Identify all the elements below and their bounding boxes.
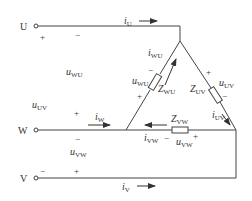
- label-z-uv: ZUV: [190, 83, 206, 96]
- label-iw: iW: [95, 111, 105, 124]
- sign-u-plus: +: [40, 32, 45, 42]
- terminal-w-label: W: [18, 125, 28, 136]
- sign-zwu-minus: −: [148, 65, 153, 75]
- impedance-zvw: [172, 127, 188, 133]
- label-uph-uv: uUV: [219, 77, 234, 90]
- sign-zwu-plus: +: [137, 91, 142, 101]
- label-iv: iV: [122, 181, 130, 194]
- sign-v-minus: −: [40, 166, 45, 176]
- impedance-zuv: [209, 87, 223, 104]
- label-z-wu: ZWU: [158, 83, 175, 96]
- wires: [38, 26, 236, 178]
- terminal-u-label: U: [20, 21, 28, 32]
- label-uph-wu: uWU: [132, 75, 149, 88]
- terminal-w: [34, 128, 38, 132]
- label-uph-vw: uVW: [176, 136, 193, 149]
- sign-zuv-minus: −: [222, 91, 227, 101]
- label-i-vw: iVW: [144, 132, 159, 145]
- branch-uv-top: [180, 41, 211, 88]
- label-u-vw: uVW: [70, 146, 87, 159]
- label-u-wu: uWU: [66, 66, 83, 79]
- sign-zvw-minus: −: [164, 133, 169, 143]
- sign-w-plus: +: [74, 108, 79, 118]
- label-i-wu: iWU: [148, 47, 162, 60]
- terminal-v: [34, 176, 38, 180]
- label-i-uv: iUV: [212, 109, 225, 122]
- terminal-u: [34, 24, 38, 28]
- terminal-v-label: V: [20, 173, 28, 184]
- branch-wu-top: [160, 41, 180, 74]
- sign-zvw-plus: +: [193, 131, 198, 141]
- delta-circuit-diagram: U W V iU iW iV uWU uUV uVW + − + − − + i…: [0, 0, 252, 201]
- label-u-uv: uUV: [32, 99, 47, 112]
- sign-v-plus: +: [74, 166, 79, 176]
- sign-w-minus: −: [75, 134, 80, 144]
- label-z-vw: ZVW: [171, 113, 189, 126]
- sign-u-minus: −: [75, 30, 80, 40]
- sign-zuv-plus: +: [206, 67, 211, 77]
